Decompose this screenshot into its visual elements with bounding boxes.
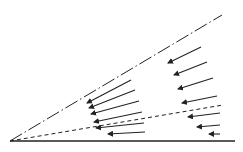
- arrow-icon: [174, 62, 207, 75]
- arrow-icon: [188, 113, 220, 117]
- arrow-icon: [108, 132, 145, 134]
- wedge-vector-diagram: [0, 0, 243, 152]
- arrow-icon: [94, 112, 142, 122]
- arrow-icon: [89, 90, 135, 108]
- arrow-icon: [197, 125, 220, 127]
- upper-boundary-line: [10, 15, 222, 141]
- arrow-icon: [91, 101, 139, 114]
- middle-boundary-line: [10, 105, 223, 141]
- boundary-lines: [10, 15, 235, 141]
- arrow-icon: [182, 96, 217, 103]
- right-group: [168, 47, 220, 134]
- arrow-icon: [178, 78, 213, 89]
- arrow-icon: [168, 47, 201, 63]
- vector-arrows: [87, 47, 220, 134]
- left-group: [87, 80, 145, 134]
